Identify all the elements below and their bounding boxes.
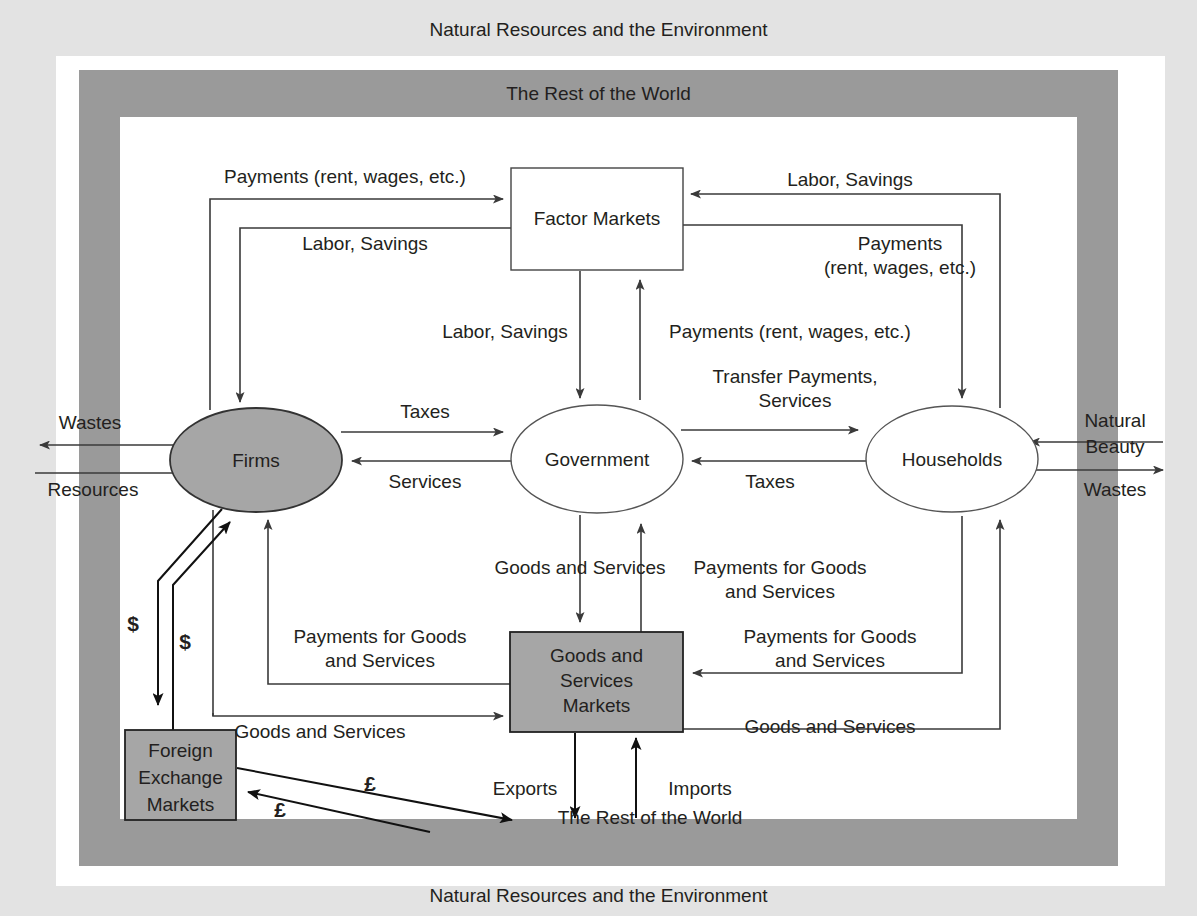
gsm-line-1: Goods and (550, 645, 643, 666)
outer-band-top-label: Natural Resources and the Environment (0, 18, 1197, 42)
pfgr-line-1: Payments for Goods (693, 557, 866, 578)
label-wastes-right: Wastes (1060, 478, 1170, 502)
gsm-line-2: Services (560, 670, 633, 691)
label-payments-for-goods-left: Payments for Goodsand Services (255, 625, 505, 673)
label-taxes-households-to-government: Taxes (700, 470, 840, 494)
ptr-line-2: (rent, wages, etc.) (824, 257, 976, 278)
outer-band-bottom-label: Natural Resources and the Environment (0, 884, 1197, 908)
label-dollar-in: $ (160, 630, 210, 654)
pfgh-line-1: Payments for Goods (743, 626, 916, 647)
pfgl-line-1: Payments for Goods (293, 626, 466, 647)
node-foreign-exchange-markets-label: ForeignExchangeMarkets (125, 737, 236, 818)
gsm-line-3: Markets (563, 695, 631, 716)
flow-firms-goods-to-markets (213, 510, 503, 716)
pfgl-line-2: and Services (325, 650, 435, 671)
label-natural-beauty-right: NaturalBeauty (1060, 408, 1170, 460)
label-pound-out: £ (345, 772, 395, 796)
nb-line-2: Beauty (1085, 436, 1144, 457)
label-labor-savings-top-left: Labor, Savings (250, 232, 480, 256)
label-wastes-left: Wastes (20, 411, 160, 435)
label-goods-and-services-market-to-households: Goods and Services (700, 715, 960, 739)
label-resources-left: Resources (18, 478, 168, 502)
inner-band-top-label: The Rest of the World (79, 82, 1118, 106)
ptr-line-1: Payments (858, 233, 942, 254)
label-labor-savings-top-right: Labor, Savings (740, 168, 960, 192)
pfgr-line-2: and Services (725, 581, 835, 602)
label-payments-for-goods-households: Payments for Goodsand Services (705, 625, 955, 673)
circular-flow-diagram: Natural Resources and the Environment Na… (0, 0, 1197, 916)
pfgh-line-2: and Services (775, 650, 885, 671)
label-payments-rent-wages-center: Payments (rent, wages, etc.) (640, 320, 940, 344)
node-factor-markets-label: Factor Markets (511, 206, 683, 231)
label-transfer-payments: Transfer Payments,Services (680, 365, 910, 413)
label-payments-rent-wages-top-left: Payments (rent, wages, etc.) (180, 165, 510, 189)
label-services-government-to-firms: Services (345, 470, 505, 494)
tp-line-2: Services (759, 390, 832, 411)
node-goods-services-markets-label: Goods andServicesMarkets (510, 643, 683, 718)
node-government-label: Government (511, 447, 683, 472)
label-taxes-firms-to-government: Taxes (355, 400, 495, 424)
label-labor-savings-center: Labor, Savings (390, 320, 620, 344)
node-households-label: Households (866, 447, 1038, 472)
label-pound-in: £ (255, 798, 305, 822)
label-goods-and-services-firms-to-market: Goods and Services (160, 720, 480, 744)
label-exports: Exports (470, 777, 580, 801)
inner-band-bottom-label: The Rest of the World (440, 806, 860, 830)
label-imports: Imports (645, 777, 755, 801)
fx-line-3: Markets (147, 794, 215, 815)
tp-line-1: Transfer Payments, (712, 366, 877, 387)
fx-line-2: Exchange (138, 767, 223, 788)
label-dollar-out: $ (108, 612, 158, 636)
label-payments-for-goods-right: Payments for Goodsand Services (655, 556, 905, 604)
nb-line-1: Natural (1084, 410, 1145, 431)
label-payments-top-right: Payments(rent, wages, etc.) (760, 232, 1040, 280)
node-firms-label: Firms (170, 448, 342, 473)
flow-firms-payments-to-factor-markets (210, 199, 503, 410)
